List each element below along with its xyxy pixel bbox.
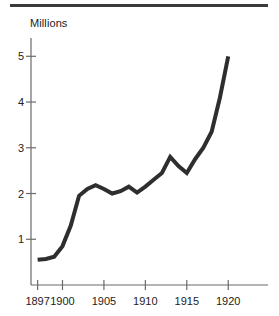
line-chart-plot (0, 0, 279, 316)
chart-figure: Millions 12345 189719001905191019151920 (0, 0, 279, 316)
x-axis-tick-label: 1920 (216, 295, 240, 307)
y-axis-tick-label: 3 (8, 142, 24, 154)
x-axis-tick-label: 1897 (25, 295, 49, 307)
data-series-line (38, 56, 229, 260)
x-axis-tick-label: 1910 (133, 295, 157, 307)
y-axis-tick-label: 5 (8, 50, 24, 62)
x-axis-tick-label: 1905 (92, 295, 116, 307)
y-axis-tick-label: 1 (8, 233, 24, 245)
x-axis-tick-label: 1915 (175, 295, 199, 307)
axis-lines (31, 38, 268, 285)
y-axis-tick-label: 4 (8, 96, 24, 108)
y-axis-tick-label: 2 (8, 188, 24, 200)
x-axis-tick-label: 1900 (50, 295, 74, 307)
